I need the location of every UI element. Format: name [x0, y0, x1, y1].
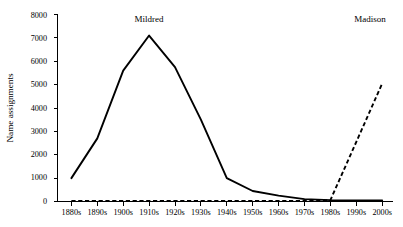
x-tick-label-1880s: 1880s — [62, 208, 82, 217]
y-tick-label-7000: 7000 — [31, 34, 47, 43]
y-tick-label-8000: 8000 — [31, 11, 47, 20]
series-annotation-madison: Madison — [354, 14, 386, 24]
x-tick-label-1890s: 1890s — [88, 208, 108, 217]
x-tick-label-1960s: 1960s — [269, 208, 289, 217]
series-annotation-mildred: Mildred — [135, 14, 164, 24]
x-tick-label-1920s: 1920s — [165, 208, 185, 217]
chart-figure: Name assignments 0 1000 2000 3000 4000 5… — [0, 0, 403, 227]
y-tick-label-3000: 3000 — [31, 127, 47, 136]
y-axis-title: Name assignments — [5, 73, 15, 143]
x-tick-label-1950s: 1950s — [243, 208, 263, 217]
x-tick-label-1940s: 1940s — [217, 208, 237, 217]
y-tick-label-1000: 1000 — [31, 173, 47, 182]
y-tick-label-4000: 4000 — [31, 104, 47, 113]
y-tick-label-0: 0 — [43, 197, 47, 206]
x-tick-label-1980s: 1980s — [321, 208, 341, 217]
y-tick-label-5000: 5000 — [31, 80, 47, 89]
y-tick-label-2000: 2000 — [31, 150, 47, 159]
x-tick-label-1910s: 1910s — [139, 208, 159, 217]
y-tick-label-6000: 6000 — [31, 57, 47, 66]
x-tick-label-1930s: 1930s — [191, 208, 211, 217]
x-tick-label-1970s: 1970s — [295, 208, 315, 217]
series-line-madison — [71, 83, 382, 201]
x-tick-label-1990s: 1990s — [347, 208, 367, 217]
line-chart: Name assignments 0 1000 2000 3000 4000 5… — [0, 0, 403, 227]
x-tick-label-2000s: 2000s — [372, 208, 392, 217]
series-line-mildred — [71, 36, 382, 201]
x-tick-label-1900s: 1900s — [113, 208, 133, 217]
